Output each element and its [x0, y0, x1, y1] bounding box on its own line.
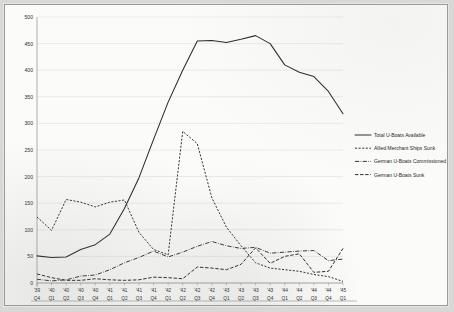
x-axis-quarter-label: Q3 — [194, 296, 201, 301]
x-axis-year-label: '44 — [296, 288, 303, 293]
x-axis-year-label: '43 — [223, 288, 230, 293]
x-axis-year-label: '40 — [49, 288, 56, 293]
x-axis-quarter-label: Q4 — [209, 296, 216, 301]
x-axis-year-label: '44 — [325, 288, 332, 293]
x-axis-year-label: '40 — [63, 288, 70, 293]
chart-plot-area: 050100150200250300350400450500 '39Q4'40Q… — [5, 5, 449, 307]
y-axis-tick-label: 100 — [25, 227, 34, 233]
x-axis-year-label: '41 — [121, 288, 128, 293]
x-axis-year-label: '42 — [180, 288, 187, 293]
x-axis-quarter-label: Q1 — [340, 296, 347, 301]
x-axis-quarter-label: Q3 — [78, 296, 85, 301]
legend-label: Total U-Boats Available — [374, 132, 426, 138]
y-axis-tick-label: 500 — [25, 14, 34, 20]
x-axis-year-label: '41 — [107, 288, 114, 293]
y-axis-tick-label: 400 — [25, 67, 34, 73]
x-axis-quarter-label: Q1 — [165, 296, 172, 301]
y-axis-tick-labels: 050100150200250300350400450500 — [25, 14, 34, 286]
chart-frame: 050100150200250300350400450500 '39Q4'40Q… — [4, 4, 448, 306]
x-axis-tick-labels: '39Q4'40Q1'40Q2'40Q3'40Q4'41Q1'41Q2'41Q3… — [34, 283, 347, 301]
y-axis-tick-label: 250 — [25, 147, 34, 153]
axis-lines — [31, 17, 357, 301]
x-axis-year-label: '42 — [194, 288, 201, 293]
legend-label: Allied Merchant Ships Sunk — [374, 145, 436, 151]
y-axis-tick-label: 300 — [25, 120, 34, 126]
x-axis-quarter-label: Q2 — [63, 296, 70, 301]
y-axis-tick-label: 150 — [25, 200, 34, 206]
x-axis-quarter-label: Q1 — [223, 296, 230, 301]
y-axis-tick-label: 50 — [27, 253, 33, 259]
series-line — [37, 36, 343, 258]
gridlines-group — [37, 17, 343, 283]
x-axis-year-label: '40 — [92, 288, 99, 293]
x-axis-year-label: '45 — [340, 288, 347, 293]
x-axis-year-label: '39 — [34, 288, 41, 293]
legend-label: German U-Boats Sunk — [374, 172, 425, 178]
x-axis-quarter-label: Q3 — [311, 296, 318, 301]
x-axis-quarter-label: Q1 — [48, 296, 55, 301]
x-axis-year-label: '43 — [238, 288, 245, 293]
x-axis-quarter-label: Q4 — [34, 296, 41, 301]
x-axis-year-label: '43 — [267, 288, 274, 293]
x-axis-year-label: '42 — [209, 288, 216, 293]
series-line — [37, 131, 343, 281]
x-axis-quarter-label: Q4 — [325, 296, 332, 301]
x-axis-quarter-label: Q1 — [107, 296, 114, 301]
chart-legend: Total U-Boats AvailableAllied Merchant S… — [355, 132, 446, 178]
x-axis-year-label: '41 — [151, 288, 158, 293]
x-axis-quarter-label: Q3 — [252, 296, 259, 301]
data-series-group — [37, 36, 343, 282]
x-axis-quarter-label: Q4 — [92, 296, 99, 301]
x-axis-year-label: '42 — [165, 288, 172, 293]
x-axis-quarter-label: Q1 — [282, 296, 289, 301]
x-axis-quarter-label: Q2 — [180, 296, 187, 301]
x-axis-year-label: '44 — [282, 288, 289, 293]
x-axis-year-label: '44 — [311, 288, 318, 293]
y-axis-tick-label: 450 — [25, 41, 34, 47]
legend-label: German U-Boats Commissioned — [374, 158, 446, 164]
x-axis-quarter-label: Q3 — [136, 296, 143, 301]
x-axis-quarter-label: Q2 — [121, 296, 128, 301]
y-axis-tick-label: 200 — [25, 174, 34, 180]
y-axis-tick-label: 0 — [30, 280, 33, 286]
x-axis-year-label: '40 — [78, 288, 85, 293]
x-axis-year-label: '41 — [136, 288, 143, 293]
line-chart: 050100150200250300350400450500 '39Q4'40Q… — [5, 5, 449, 307]
x-axis-year-label: '43 — [253, 288, 260, 293]
x-axis-quarter-label: Q4 — [150, 296, 157, 301]
y-axis-tick-label: 350 — [25, 94, 34, 100]
series-line — [37, 242, 343, 281]
x-axis-quarter-label: Q4 — [267, 296, 274, 301]
x-axis-quarter-label: Q2 — [296, 296, 303, 301]
x-axis-quarter-label: Q2 — [238, 296, 245, 301]
